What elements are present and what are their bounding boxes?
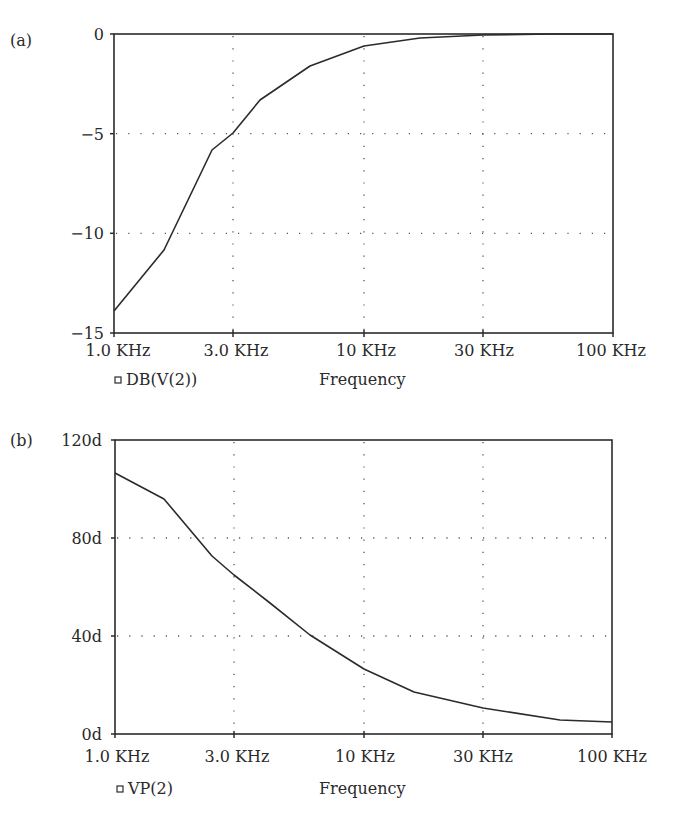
x-tick-label: 30 KHz: [454, 341, 514, 360]
x-tick-label: 1.0 KHz: [86, 341, 151, 360]
y-tick-label: 80d: [71, 529, 102, 548]
legend-square-icon: [115, 377, 121, 383]
legend-square-icon: [117, 786, 123, 792]
x-axis-title-b: Frequency: [319, 779, 406, 798]
chart-a: (a) 0 −5 −10: [10, 25, 646, 389]
y-tick-label: 40d: [71, 627, 102, 646]
grid-a: [116, 36, 612, 332]
y-tick-label: −10: [70, 224, 104, 243]
panel-label-a: (a): [10, 31, 32, 50]
y-axis-labels-b: 120d 80d 40d 0d: [61, 431, 102, 744]
y-tick-label: 0: [94, 25, 104, 44]
y-tick-label: 120d: [61, 431, 102, 450]
legend-label-b: VP(2): [127, 779, 173, 798]
plot-area-b: [115, 440, 612, 734]
trace-vp2: [115, 473, 612, 722]
x-tick-label: 100 KHz: [576, 341, 646, 360]
chart-b: (b) 120d 80d 40d: [10, 431, 647, 798]
panel-label-b: (b): [10, 431, 33, 450]
x-axis-title-a: Frequency: [319, 370, 406, 389]
trace-db-v2: [114, 34, 613, 311]
x-tick-label: 30 KHz: [453, 747, 513, 766]
y-tick-label: −5: [80, 125, 104, 144]
y-tick-label: 0d: [82, 725, 102, 744]
x-axis-labels-b: 1.0 KHz 3.0 KHz 10 KHz 30 KHz 100 KHz: [85, 747, 647, 766]
x-tick-label: 3.0 KHz: [205, 747, 270, 766]
legend-label-a: DB(V(2)): [126, 370, 197, 389]
grid-b: [117, 442, 611, 733]
x-axis-labels-a: 1.0 KHz 3.0 KHz 10 KHz 30 KHz 100 KHz: [86, 341, 646, 360]
ticks-a: [110, 34, 613, 337]
y-axis-labels-a: 0 −5 −10 −15: [70, 25, 104, 343]
x-tick-label: 100 KHz: [577, 747, 647, 766]
ticks-b: [111, 440, 612, 738]
x-tick-label: 10 KHz: [336, 341, 396, 360]
x-tick-label: 10 KHz: [335, 747, 395, 766]
x-tick-label: 1.0 KHz: [85, 747, 150, 766]
x-tick-label: 3.0 KHz: [204, 341, 269, 360]
figure: (a) 0 −5 −10: [0, 0, 677, 830]
